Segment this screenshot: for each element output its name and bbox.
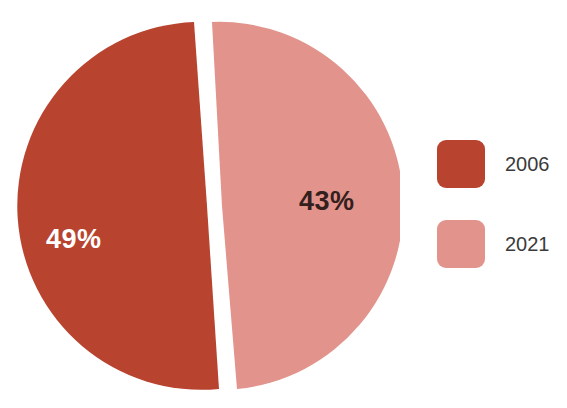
- pie-chart-figure: 49% 43% 2006 2021: [0, 0, 567, 408]
- pie-slice-2006[interactable]: [17, 22, 219, 390]
- pie-slice-label-2006: 49%: [46, 224, 102, 255]
- legend-item-2021[interactable]: 2021: [437, 220, 557, 268]
- legend-label-2021: 2021: [505, 234, 550, 254]
- legend-swatch-2021: [437, 220, 485, 268]
- pie-chart-plot-area: 49% 43%: [0, 0, 400, 408]
- legend-label-2006: 2006: [505, 154, 550, 174]
- chart-legend: 2006 2021: [437, 140, 557, 270]
- legend-swatch-2006: [437, 140, 485, 188]
- legend-item-2006[interactable]: 2006: [437, 140, 557, 188]
- pie-slice-label-2021: 43%: [299, 186, 355, 217]
